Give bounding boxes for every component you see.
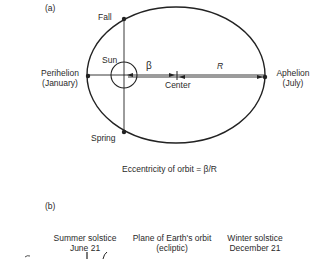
ecliptic-name: Plane of Earth's orbit xyxy=(126,233,218,243)
panel-b-label: (b) xyxy=(45,201,55,211)
fall-label: Fall xyxy=(98,12,112,22)
aphelion-label: Aphelion (July) xyxy=(268,68,318,88)
winter-solstice-name: Winter solstice xyxy=(220,233,290,243)
center-label: Center xyxy=(165,80,191,90)
r-label: R xyxy=(217,61,223,71)
panel-a-label: (a) xyxy=(45,3,55,13)
sun-label: Sun xyxy=(102,55,117,65)
perihelion-name: Perihelion xyxy=(36,68,84,78)
winter-solstice-date: December 21 xyxy=(220,243,290,253)
beta-arrow-left xyxy=(127,73,133,77)
aphelion-name: Aphelion xyxy=(268,68,318,78)
spring-label: Spring xyxy=(91,133,116,143)
ecliptic-sub: (ecliptic) xyxy=(126,243,218,253)
fall-point xyxy=(122,17,126,21)
winter-solstice-label: Winter solstice December 21 xyxy=(220,233,290,253)
partial-curve xyxy=(103,252,107,259)
summer-solstice-name: Summer solstice xyxy=(46,233,124,243)
summer-solstice-date: June 21 xyxy=(46,243,124,253)
summer-solstice-label: Summer solstice June 21 xyxy=(46,233,124,253)
orbit-diagram xyxy=(0,0,324,259)
eccentricity-formula: Eccentricity of orbit = β/R xyxy=(122,164,217,174)
perihelion-point xyxy=(86,74,90,78)
partial-mark xyxy=(25,256,30,257)
r-arrow-left xyxy=(179,75,185,79)
perihelion-label: Perihelion (January) xyxy=(36,68,84,88)
aphelion-point xyxy=(263,75,267,79)
r-arrow-right xyxy=(257,75,263,79)
ecliptic-label: Plane of Earth's orbit (ecliptic) xyxy=(126,233,218,253)
aphelion-month: (July) xyxy=(268,78,318,88)
spring-point xyxy=(122,130,126,134)
perihelion-month: (January) xyxy=(36,78,84,88)
beta-arrow-right xyxy=(169,73,175,77)
beta-label: β xyxy=(146,61,152,71)
